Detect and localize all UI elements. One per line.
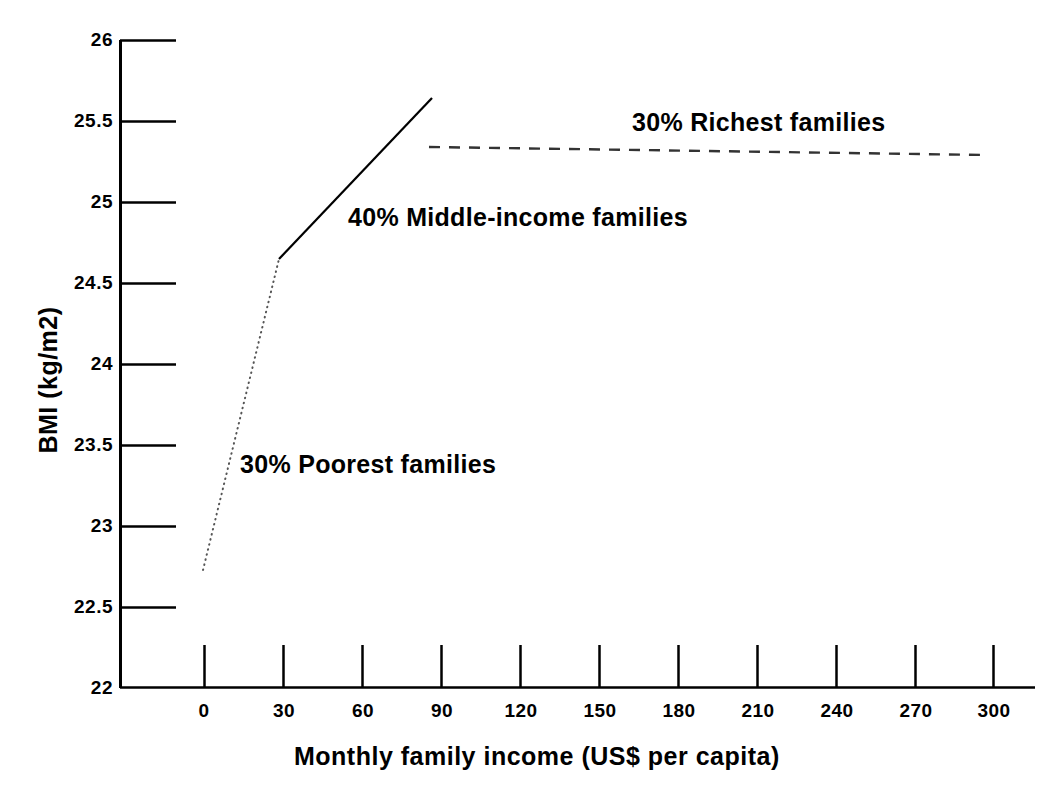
series-line-richest <box>429 147 986 155</box>
y-tick-label-22-5: 22.5 <box>43 596 113 618</box>
x-axis-ticks <box>205 645 994 688</box>
series-line-poorest <box>203 259 279 570</box>
x-tick-label-300: 300 <box>977 700 1010 722</box>
series-label-poorest: 30% Poorest families <box>240 450 496 479</box>
x-tick-label-180: 180 <box>662 700 695 722</box>
chart-figure: 26 25.5 25 24.5 24 23.5 23 22.5 22 0 30 … <box>0 0 1053 791</box>
y-axis-title: BMI (kg/m2) <box>34 306 63 453</box>
series-label-richest: 30% Richest families <box>632 108 885 137</box>
y-tick-label-25: 25 <box>53 191 113 213</box>
y-tick-label-24-5: 24.5 <box>43 272 113 294</box>
x-tick-label-120: 120 <box>504 700 537 722</box>
y-axis-ticks <box>120 41 176 608</box>
y-tick-label-23: 23 <box>53 515 113 537</box>
x-tick-label-60: 60 <box>352 700 374 722</box>
series-line-middle <box>279 98 432 259</box>
x-tick-label-150: 150 <box>583 700 616 722</box>
x-tick-label-0: 0 <box>198 700 209 722</box>
x-axis-title: Monthly family income (US$ per capita) <box>294 742 780 771</box>
x-tick-label-90: 90 <box>431 700 453 722</box>
y-tick-label-22: 22 <box>53 677 113 699</box>
x-tick-label-210: 210 <box>741 700 774 722</box>
x-tick-label-30: 30 <box>273 700 295 722</box>
x-tick-label-270: 270 <box>899 700 932 722</box>
x-tick-label-240: 240 <box>820 700 853 722</box>
y-tick-label-25-5: 25.5 <box>43 110 113 132</box>
series-label-middle: 40% Middle-income families <box>348 203 688 232</box>
y-tick-label-26: 26 <box>53 29 113 51</box>
chart-plot-area <box>0 0 1053 791</box>
